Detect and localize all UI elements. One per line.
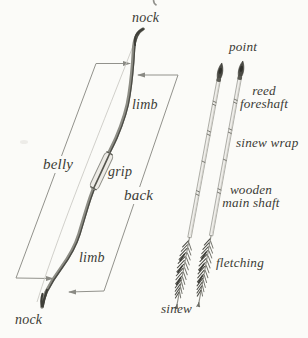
page-edge-mark xyxy=(154,0,157,5)
label-grip: grip xyxy=(108,164,132,179)
label-back: back xyxy=(121,187,156,204)
label-reed-foreshaft-line2: foreshaft xyxy=(230,98,298,111)
back-arrowhead-top xyxy=(137,73,145,78)
label-reed-foreshaft: reed foreshaft xyxy=(230,85,298,110)
diagram-canvas: nock limb belly grip back limb nock poin… xyxy=(0,0,308,338)
label-fletching: fletching xyxy=(216,256,264,271)
label-wooden-main-shaft-line2: main shaft xyxy=(212,197,290,210)
label-wooden-main-shaft: wooden main shaft xyxy=(212,184,290,209)
label-limb-upper: limb xyxy=(132,97,158,112)
label-nock-top: nock xyxy=(132,10,159,25)
label-sinew: sinew xyxy=(161,302,192,317)
back-arrowhead-bottom xyxy=(68,290,76,295)
paper-smudge xyxy=(20,140,28,144)
label-limb-lower: limb xyxy=(79,250,105,265)
label-nock-bottom: nock xyxy=(15,312,42,327)
label-point: point xyxy=(229,40,257,55)
label-sinew-wrap: sinew wrap xyxy=(236,136,298,151)
label-belly: belly xyxy=(40,156,76,173)
